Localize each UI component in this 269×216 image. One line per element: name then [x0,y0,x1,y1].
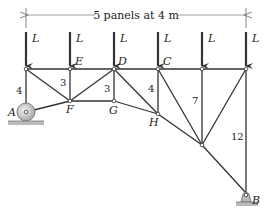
svg-text:3: 3 [60,77,66,88]
svg-text:12: 12 [231,131,244,142]
svg-text:L: L [207,32,215,45]
load-arrow-5: L [202,32,215,66]
svg-text:3: 3 [104,83,110,94]
svg-text:L: L [119,32,127,45]
loads: L L L L L L [26,32,259,66]
label-e: E [74,55,83,68]
svg-text:4: 4 [16,85,22,96]
truss-members [26,69,246,193]
label-b: B [251,194,260,207]
label-h: H [148,116,159,129]
load-arrow-1: L [26,32,39,66]
node-labels: A F G H E D C B [7,55,260,207]
label-f: F [65,103,74,116]
label-a: A [7,106,16,119]
svg-text:L: L [31,32,39,45]
dimension-line: 5 panels at 4 m [26,8,246,28]
svg-text:L: L [75,32,83,45]
dimension-label: 5 panels at 4 m [93,9,179,22]
label-c: C [163,55,172,68]
truss-diagram: 5 panels at 4 m L L L L L L [0,0,269,216]
label-g: G [109,104,118,117]
label-d: D [117,55,127,68]
svg-text:7: 7 [192,95,198,106]
svg-text:4: 4 [148,83,154,94]
load-arrow-6: L [246,32,259,66]
svg-text:L: L [251,32,259,45]
svg-text:L: L [163,32,171,45]
